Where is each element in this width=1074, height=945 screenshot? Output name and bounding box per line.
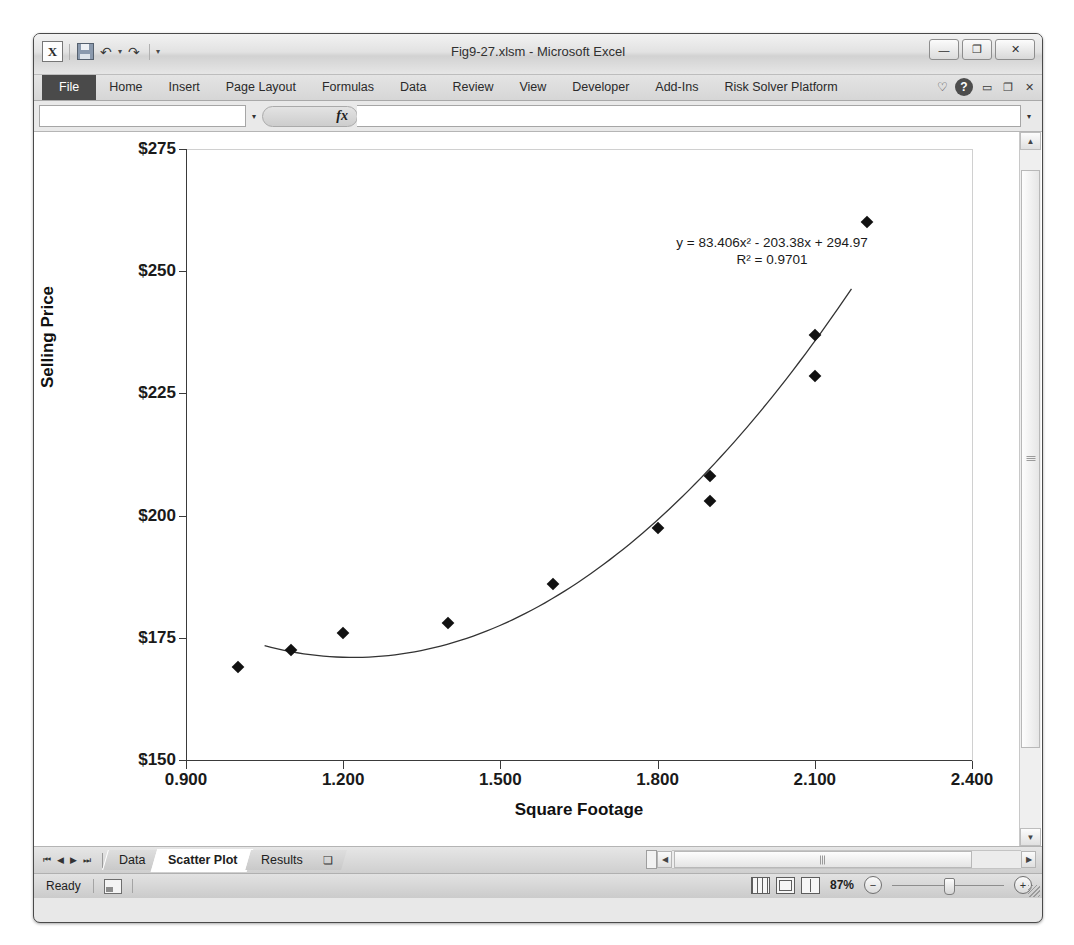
- sheet-tab-results[interactable]: Results: [244, 850, 318, 870]
- ribbon-right-controls: ♡ ? ▭ ❐ ✕: [937, 78, 1036, 96]
- tab-add-ins[interactable]: Add-Ins: [642, 75, 711, 100]
- sheet-tab-scatter-plot[interactable]: Scatter Plot: [151, 849, 254, 872]
- tab-page-layout[interactable]: Page Layout: [213, 75, 309, 100]
- page-break-view-icon[interactable]: [801, 877, 820, 894]
- page-layout-view-icon[interactable]: [776, 877, 795, 894]
- name-box[interactable]: [39, 105, 246, 127]
- split-handle[interactable]: [646, 850, 657, 869]
- close-workbook-icon[interactable]: ✕: [1022, 81, 1036, 94]
- divider: [93, 879, 94, 893]
- expand-formula-bar-icon[interactable]: ▾: [1021, 112, 1037, 121]
- status-text: Ready: [34, 879, 93, 893]
- tab-view[interactable]: View: [506, 75, 559, 100]
- formula-input[interactable]: [357, 105, 1021, 127]
- help-icon[interactable]: ?: [955, 78, 973, 96]
- restore-button[interactable]: ❐: [962, 39, 992, 60]
- horizontal-scrollbar-thumb[interactable]: [674, 851, 972, 868]
- sheet-tab-bar: ⏮ ◀ ▶ ⏭ Data Scatter Plot Results ❏ ◀ ▶: [34, 846, 1042, 873]
- insert-function-button[interactable]: fx: [262, 106, 358, 127]
- formula-bar: ▾ fx ▾: [34, 101, 1042, 132]
- scatter-chart[interactable]: $150$175$200$225$250$275 0.9001.2001.500…: [44, 138, 984, 838]
- sheet-tab-label: Data: [119, 850, 145, 870]
- next-sheet-icon[interactable]: ▶: [70, 855, 77, 865]
- sheet-canvas[interactable]: $150$175$200$225$250$275 0.9001.2001.500…: [34, 132, 1020, 846]
- sheet-nav-buttons: ⏮ ◀ ▶ ⏭: [34, 855, 100, 866]
- status-right-controls: 87% − +: [751, 876, 1032, 894]
- fx-icon: fx: [336, 108, 348, 124]
- tab-developer[interactable]: Developer: [559, 75, 642, 100]
- tab-file[interactable]: File: [42, 75, 96, 100]
- close-button[interactable]: ✕: [995, 39, 1035, 60]
- scroll-left-icon[interactable]: ◀: [657, 851, 672, 868]
- vertical-scrollbar-thumb[interactable]: [1021, 170, 1040, 748]
- window-controls: — ❐ ✕: [929, 39, 1035, 60]
- tab-home[interactable]: Home: [96, 75, 155, 100]
- record-macro-icon[interactable]: [104, 879, 122, 894]
- ribbon-tabs: File Home Insert Page Layout Formulas Da…: [42, 75, 851, 100]
- zoom-out-button[interactable]: −: [864, 876, 882, 894]
- tab-insert[interactable]: Insert: [156, 75, 213, 100]
- scroll-up-icon[interactable]: ▲: [1020, 132, 1041, 150]
- minimize-ribbon-icon[interactable]: ▭: [980, 81, 994, 94]
- scroll-right-icon[interactable]: ▶: [1021, 851, 1036, 868]
- window-title: Fig9-27.xlsm - Microsoft Excel: [34, 44, 1042, 59]
- title-bar: X ↶ ▾ ↷ ▾ Fig9-27.xlsm - Microsoft Excel…: [34, 34, 1042, 75]
- minimize-button[interactable]: —: [929, 39, 959, 60]
- tab-review[interactable]: Review: [439, 75, 506, 100]
- ribbon-tab-bar: File Home Insert Page Layout Formulas Da…: [34, 75, 1042, 101]
- sheet-tab-label: Scatter Plot: [168, 849, 237, 872]
- worksheet-area: $150$175$200$225$250$275 0.9001.2001.500…: [34, 132, 1042, 846]
- last-sheet-icon[interactable]: ⏭: [83, 855, 91, 866]
- equation-text: y = 83.406x² - 203.38x + 294.97: [642, 234, 902, 251]
- horizontal-scrollbar[interactable]: ◀ ▶: [646, 850, 1036, 869]
- trendline-equation-label: y = 83.406x² - 203.38x + 294.97 R² = 0.9…: [642, 234, 902, 269]
- vertical-scrollbar[interactable]: ▲ ▼: [1019, 132, 1041, 846]
- tab-risk-solver-platform[interactable]: Risk Solver Platform: [711, 75, 850, 100]
- tab-formulas[interactable]: Formulas: [309, 75, 387, 100]
- horizontal-scrollbar-track[interactable]: [672, 850, 1021, 869]
- scroll-down-icon[interactable]: ▼: [1020, 828, 1041, 846]
- tab-data[interactable]: Data: [387, 75, 439, 100]
- new-sheet-glyph: ❏: [323, 854, 333, 867]
- excel-window: X ↶ ▾ ↷ ▾ Fig9-27.xlsm - Microsoft Excel…: [33, 33, 1043, 923]
- zoom-slider[interactable]: [892, 885, 1004, 886]
- insert-worksheet-icon[interactable]: ❏: [309, 850, 347, 870]
- resize-grip-icon[interactable]: [1028, 885, 1040, 897]
- zoom-slider-thumb[interactable]: [944, 878, 955, 895]
- status-bar: Ready 87% − +: [34, 873, 1042, 898]
- normal-view-icon[interactable]: [751, 877, 770, 894]
- restore-window-icon[interactable]: ❐: [1001, 81, 1015, 94]
- sheet-tab-label: Results: [261, 850, 303, 870]
- prev-sheet-icon[interactable]: ◀: [57, 855, 64, 865]
- scrollbar-grip-icon: [1026, 456, 1035, 462]
- name-box-dropdown-icon[interactable]: ▾: [246, 106, 262, 126]
- zoom-level-label[interactable]: 87%: [826, 878, 858, 892]
- first-sheet-icon[interactable]: ⏮: [43, 855, 51, 866]
- divider: [132, 879, 133, 893]
- heart-icon[interactable]: ♡: [937, 80, 948, 94]
- r-squared-text: R² = 0.9701: [642, 251, 902, 268]
- scrollbar-grip-icon: [820, 855, 826, 864]
